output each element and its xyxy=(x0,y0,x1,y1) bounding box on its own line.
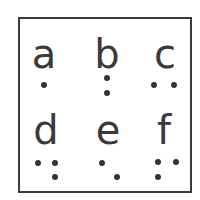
braille-dot-2 xyxy=(104,90,110,96)
braille-cell-d: d xyxy=(18,104,74,184)
braille-dot-4 xyxy=(52,160,58,166)
braille-dots xyxy=(16,28,72,108)
braille-dot-1 xyxy=(151,82,157,88)
braille-dot-1 xyxy=(104,75,110,81)
braille-dot-1 xyxy=(99,160,105,166)
braille-cell-c: c xyxy=(137,28,193,108)
braille-dots xyxy=(80,104,136,184)
braille-dots xyxy=(18,104,74,184)
braille-dots xyxy=(79,28,135,108)
braille-dot-1 xyxy=(41,82,47,88)
braille-dot-5 xyxy=(114,174,120,180)
braille-dot-5 xyxy=(52,174,58,180)
braille-cell-b: b xyxy=(79,28,135,108)
braille-dots xyxy=(136,104,192,184)
braille-cell-e: e xyxy=(80,104,136,184)
braille-dots xyxy=(137,28,193,108)
braille-dot-1 xyxy=(35,160,41,166)
braille-dot-1 xyxy=(155,159,161,165)
braille-dot-4 xyxy=(173,159,179,165)
braille-cell-a: a xyxy=(16,28,72,108)
braille-dot-4 xyxy=(171,82,177,88)
braille-cell-f: f xyxy=(136,104,192,184)
braille-dot-2 xyxy=(155,174,161,180)
